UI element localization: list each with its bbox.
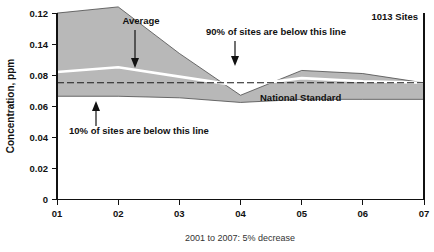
y-tick-marks [52, 13, 57, 200]
ozone-trend-chart: 0.12 0.14 0.08 0.06 0.04 0.02 0 01 02 03… [0, 0, 434, 252]
y-tick-label-6: 0 [43, 194, 48, 205]
x-tick-label-4: 05 [296, 208, 307, 219]
x-tick-label-3: 04 [235, 208, 246, 219]
y-tick-label-5: 0.02 [30, 163, 49, 174]
x-tick-label-0: 01 [52, 208, 63, 219]
percentile-band [57, 7, 424, 103]
y-tick-label-1: 0.14 [30, 39, 49, 50]
x-tick-label-6: 07 [419, 208, 430, 219]
y-tick-label-2: 0.08 [30, 70, 49, 81]
x-tick-marks [57, 200, 424, 205]
site-count-label: 1013 Sites [372, 11, 418, 22]
chart-caption: 2001 to 2007: 5% decrease [185, 233, 295, 243]
annotation-lower-label: 10% of sites are below this line [69, 125, 209, 136]
x-tick-label-5: 06 [358, 208, 369, 219]
y-tick-label-4: 0.04 [30, 132, 49, 143]
y-tick-label-3: 0.06 [30, 101, 49, 112]
x-tick-label-2: 03 [174, 208, 185, 219]
y-axis-title: Concentration, ppm [5, 59, 16, 154]
annotation-upper-arrow [231, 41, 239, 66]
y-tick-label-0: 0.12 [30, 8, 49, 19]
annotation-lower-arrow [92, 101, 100, 126]
x-tick-label-1: 02 [113, 208, 124, 219]
annotation-national-standard-label: National Standard [260, 92, 341, 103]
chart-container: 0.12 0.14 0.08 0.06 0.04 0.02 0 01 02 03… [0, 0, 434, 252]
annotation-upper-label: 90% of sites are below this line [206, 26, 346, 37]
annotation-average-label: Average [122, 15, 159, 26]
